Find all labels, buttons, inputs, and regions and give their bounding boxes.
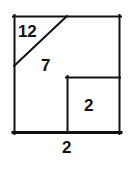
- label-inner-square-2: 2: [84, 97, 93, 114]
- geometry-figure: 12 7 2 2: [0, 0, 131, 176]
- label-leg-7: 7: [41, 57, 50, 74]
- label-hypotenuse-12: 12: [18, 23, 37, 40]
- label-base-2: 2: [62, 139, 71, 156]
